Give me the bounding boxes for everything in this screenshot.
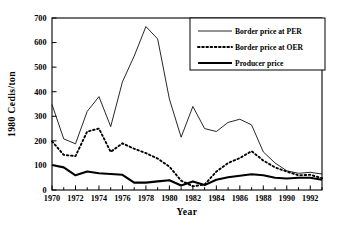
x-tick-label: 1984 <box>208 194 224 203</box>
x-tick-label: 1982 <box>185 194 201 203</box>
x-tick-label: 1970 <box>44 194 60 203</box>
y-tick-label: 200 <box>34 137 46 146</box>
y-tick-label: 600 <box>34 38 46 47</box>
legend-label-1: Border price at PER <box>235 27 302 36</box>
x-tick-label: 1976 <box>114 194 130 203</box>
x-tick-label: 1980 <box>161 194 177 203</box>
y-tick-label: 300 <box>34 112 46 121</box>
x-tick-label: 1990 <box>279 194 295 203</box>
x-tick-label: 1972 <box>67 194 83 203</box>
chart-canvas: 0100200300400500600700197019721974197619… <box>0 0 342 229</box>
y-tick-label: 400 <box>34 88 46 97</box>
legend-label-3: Producer price <box>235 59 284 68</box>
y-tick-label: 700 <box>34 14 46 23</box>
x-tick-label: 1974 <box>91 194 107 203</box>
chart-figure: 0100200300400500600700197019721974197619… <box>0 0 342 229</box>
x-axis-title: Year <box>177 206 198 217</box>
y-axis-title: 1980 Cedis/ton <box>6 71 17 137</box>
x-tick-label: 1978 <box>138 194 154 203</box>
legend-label-2: Border price at OER <box>235 43 303 52</box>
x-tick-label: 1992 <box>302 194 318 203</box>
y-tick-label: 500 <box>34 63 46 72</box>
x-tick-label: 1986 <box>232 194 248 203</box>
line-chart-svg: 0100200300400500600700197019721974197619… <box>0 0 342 229</box>
x-tick-label: 1988 <box>255 194 271 203</box>
y-tick-label: 100 <box>34 161 46 170</box>
